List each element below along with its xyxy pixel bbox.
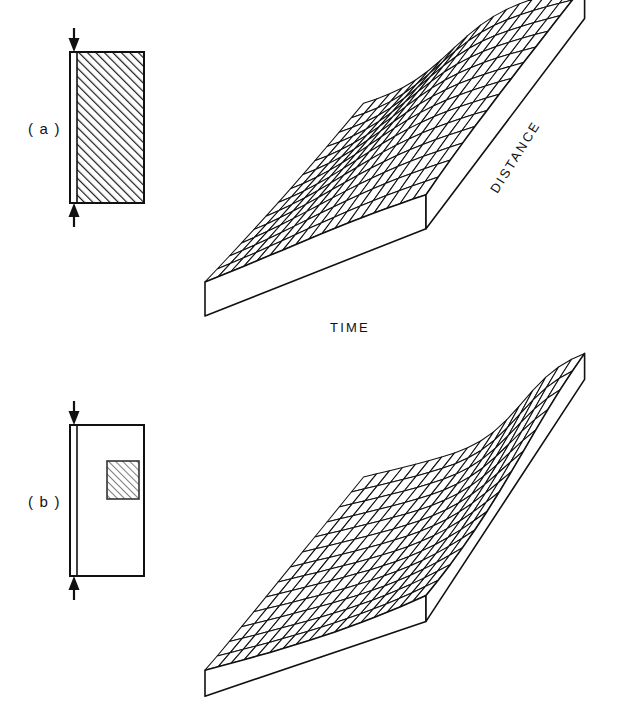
- panel-b-surface-plot: [0, 0, 619, 719]
- figure-root: ( a ): [0, 0, 619, 719]
